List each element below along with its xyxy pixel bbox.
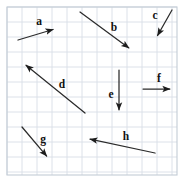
vector-label-f: f <box>157 72 161 84</box>
vector-label-d: d <box>59 78 66 90</box>
vector-label-c: c <box>152 9 157 21</box>
vector-arrow-b <box>80 12 129 48</box>
vector-diagram-canvas: abcdefgh <box>0 0 185 182</box>
vector-label-g: g <box>40 133 46 146</box>
vector-diagram-figure: abcdefgh <box>0 0 185 182</box>
vector-label-a: a <box>36 15 42 27</box>
vector-label-b: b <box>111 21 117 33</box>
vector-arrow-c <box>158 10 172 35</box>
vector-label-h: h <box>123 130 130 142</box>
vector-label-e: e <box>108 88 113 100</box>
vector-arrow-d <box>26 65 85 113</box>
vector-arrow-a <box>18 29 53 40</box>
graph-paper-grid <box>7 7 177 175</box>
grid-frame <box>7 7 177 175</box>
